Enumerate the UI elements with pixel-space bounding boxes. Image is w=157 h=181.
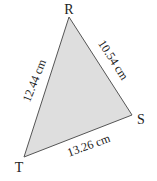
vertex-label-r: R xyxy=(64,2,74,17)
triangle-diagram: R S T 12.44 cm 10.54 cm 13.26 cm xyxy=(0,0,157,181)
vertex-label-t: T xyxy=(15,160,24,175)
triangle-svg: R S T 12.44 cm 10.54 cm 13.26 cm xyxy=(0,0,157,181)
vertex-label-s: S xyxy=(137,112,145,127)
triangle-rst xyxy=(24,17,132,157)
